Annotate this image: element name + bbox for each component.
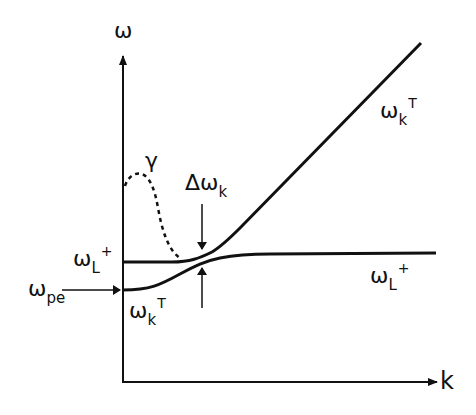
omega-L-left-main: ω <box>73 246 91 271</box>
delta-omega-label: Δωk <box>185 172 227 194</box>
upper-branch-curve <box>123 43 421 262</box>
omega-kT-right-main: ω <box>380 98 398 123</box>
gamma-dashed-curve <box>125 174 180 259</box>
omega-kT-right-sup: T <box>408 95 417 111</box>
omega-pe-label: ωpe <box>28 278 65 300</box>
omega-pe-main: ω <box>28 276 46 301</box>
x-axis-label: k <box>440 369 454 393</box>
omega-kT-left-sub: k <box>147 311 156 329</box>
omega-L-left-sup: + <box>101 243 113 259</box>
omega-kT-right-label: ωkT <box>380 100 417 122</box>
omega-L-plus-right-label: ωL+ <box>370 265 410 287</box>
gamma-label: γ <box>145 150 158 172</box>
omega-kT-right-sub: k <box>398 111 407 129</box>
delta-omega-sub: k <box>218 183 227 201</box>
x-axis-label-text: k <box>440 367 454 395</box>
omega-L-right-sub: L <box>388 276 396 294</box>
delta-omega-main: Δω <box>185 170 218 195</box>
omega-kT-left-main: ω <box>129 298 147 323</box>
omega-pe-sub: pe <box>46 289 65 307</box>
y-axis-label: ω <box>114 20 132 42</box>
omega-kT-left-sup: T <box>157 295 166 311</box>
diagram-canvas <box>0 0 476 415</box>
omega-kT-left-label: ωkT <box>129 300 166 322</box>
omega-L-right-sup: + <box>398 260 410 276</box>
omega-L-right-main: ω <box>370 263 388 288</box>
omega-L-left-sub: L <box>91 259 99 277</box>
omega-L-plus-left-label: ωL+ <box>73 248 113 270</box>
dispersion-diagram: ω k γ Δωk ωL+ ωpe ωkT ωkT ωL+ <box>0 0 476 415</box>
y-axis-label-text: ω <box>114 18 132 43</box>
gamma-label-text: γ <box>145 148 158 173</box>
